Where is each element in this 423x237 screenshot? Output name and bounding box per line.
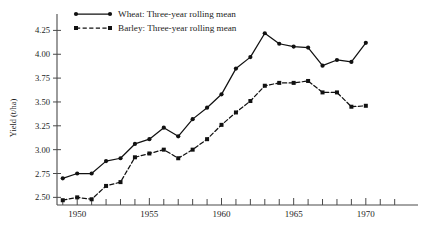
series-wheat: [61, 31, 368, 180]
data-point: [147, 151, 151, 155]
legend-swatch-marker: [108, 12, 112, 16]
legend-entry-barley: Barley: Three-year rolling mean: [74, 23, 237, 33]
legend-swatch-marker: [74, 26, 78, 30]
series-layer: [61, 31, 368, 202]
x-tick-label: 1965: [285, 209, 304, 219]
legend-entry-wheat: Wheat: Three-year rolling mean: [74, 9, 236, 19]
data-point: [248, 55, 252, 59]
data-point: [205, 106, 209, 110]
legend-swatch-marker: [74, 12, 78, 16]
data-point: [104, 159, 108, 163]
data-point: [263, 84, 267, 88]
data-point: [364, 104, 368, 108]
data-point: [133, 142, 137, 146]
data-point: [349, 105, 353, 109]
series-path: [63, 81, 366, 200]
data-point: [292, 81, 296, 85]
y-tick-label: 3.75: [35, 73, 50, 83]
y-tick-label: 3.00: [35, 145, 50, 155]
data-point: [248, 99, 252, 103]
data-point: [263, 31, 267, 35]
series-path: [63, 33, 366, 178]
data-point: [292, 45, 296, 49]
data-point: [191, 148, 195, 152]
legend-swatch-marker: [108, 26, 112, 30]
data-point: [349, 60, 353, 64]
data-point: [234, 66, 238, 70]
data-point: [306, 45, 310, 49]
yield-line-chart: 2.502.753.003.253.503.754.004.25 1950195…: [0, 0, 423, 237]
data-point: [61, 198, 65, 202]
y-tick-label: 3.50: [35, 97, 50, 107]
data-point: [335, 58, 339, 62]
x-tick-label: 1950: [68, 209, 87, 219]
x-tick-label: 1955: [140, 209, 159, 219]
data-point: [133, 155, 137, 159]
data-point: [205, 137, 209, 141]
data-point: [364, 41, 368, 45]
data-point: [220, 123, 224, 127]
y-tick-label: 2.75: [35, 169, 50, 179]
y-tick-label: 2.50: [35, 192, 50, 202]
data-point: [75, 195, 79, 199]
y-tick-label: 4.25: [35, 25, 50, 35]
data-point: [75, 171, 79, 175]
legend-layer: Wheat: Three-year rolling meanBarley: Th…: [74, 9, 237, 33]
y-tick-label: 3.25: [35, 121, 50, 131]
data-point: [176, 134, 180, 138]
x-tick-layer: 19501955196019651970: [63, 198, 395, 219]
legend-label: Barley: Three-year rolling mean: [118, 23, 237, 33]
data-point: [277, 81, 281, 85]
data-point: [306, 79, 310, 83]
data-point: [61, 176, 65, 180]
data-point: [321, 90, 325, 94]
data-point: [147, 137, 151, 141]
data-point: [335, 90, 339, 94]
chart-figure: 2.502.753.003.253.503.754.004.25 1950195…: [0, 0, 423, 237]
data-point: [277, 42, 281, 46]
data-point: [119, 180, 123, 184]
data-point: [118, 156, 122, 160]
data-point: [90, 171, 94, 175]
data-point: [191, 117, 195, 121]
data-point: [176, 156, 180, 160]
data-point: [90, 197, 94, 201]
data-point: [219, 92, 223, 96]
x-tick-label: 1970: [357, 209, 376, 219]
data-point: [234, 110, 238, 114]
series-barley: [61, 79, 368, 202]
data-point: [162, 148, 166, 152]
legend-label: Wheat: Three-year rolling mean: [118, 9, 236, 19]
data-point: [104, 184, 108, 188]
x-tick-label: 1960: [213, 209, 232, 219]
data-point: [320, 64, 324, 68]
y-axis-title: Yield (t/ha): [9, 99, 18, 138]
y-tick-label: 4.00: [35, 49, 50, 59]
data-point: [162, 126, 166, 130]
